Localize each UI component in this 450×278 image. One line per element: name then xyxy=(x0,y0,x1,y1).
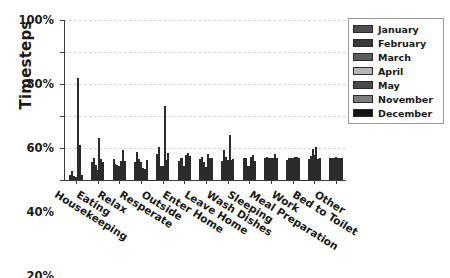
y-tick-label: 40% xyxy=(26,205,54,219)
legend-swatch xyxy=(353,39,373,47)
bar xyxy=(211,158,213,180)
bar-chart-figure: Timesteps 0%20%40%60%80%100% Housekeepin… xyxy=(0,0,450,278)
legend-item: April xyxy=(353,64,439,78)
legend-swatch xyxy=(353,53,373,61)
legend-label: February xyxy=(378,38,426,49)
bar xyxy=(146,160,148,180)
x-axis-line xyxy=(64,180,346,181)
y-tick-label: 60% xyxy=(26,141,54,155)
bar xyxy=(124,161,126,180)
plot-area: 0%20%40%60%80%100% HousekeepingEatingRel… xyxy=(64,20,346,180)
y-tick-label: 80% xyxy=(26,77,54,91)
legend-swatch xyxy=(353,109,373,117)
legend-item: December xyxy=(353,106,439,120)
legend-label: May xyxy=(378,80,400,91)
legend-item: November xyxy=(353,92,439,106)
legend: JanuaryFebruaryMarchAprilMayNovemberDece… xyxy=(348,18,444,124)
legend-label: December xyxy=(378,108,432,119)
bars-group xyxy=(65,20,346,180)
legend-label: April xyxy=(378,66,403,77)
bar xyxy=(298,158,300,180)
legend-label: March xyxy=(378,52,411,63)
bar xyxy=(319,158,321,180)
legend-swatch xyxy=(353,81,373,89)
legend-swatch xyxy=(353,67,373,75)
bar xyxy=(102,162,104,180)
y-tick-label: 100% xyxy=(18,13,54,27)
bar xyxy=(167,153,169,180)
legend-item: May xyxy=(353,78,439,92)
legend-label: November xyxy=(378,94,433,105)
bar xyxy=(232,159,234,180)
legend-label: January xyxy=(378,24,419,35)
legend-swatch xyxy=(353,25,373,33)
legend-item: January xyxy=(353,22,439,36)
legend-swatch xyxy=(353,95,373,103)
bar xyxy=(254,161,256,180)
y-axis-line xyxy=(64,20,65,180)
legend-item: February xyxy=(353,36,439,50)
bar xyxy=(341,158,343,180)
y-tick-label: 20% xyxy=(26,269,54,278)
legend-item: March xyxy=(353,50,439,64)
bar xyxy=(276,158,278,180)
bar xyxy=(189,156,191,180)
